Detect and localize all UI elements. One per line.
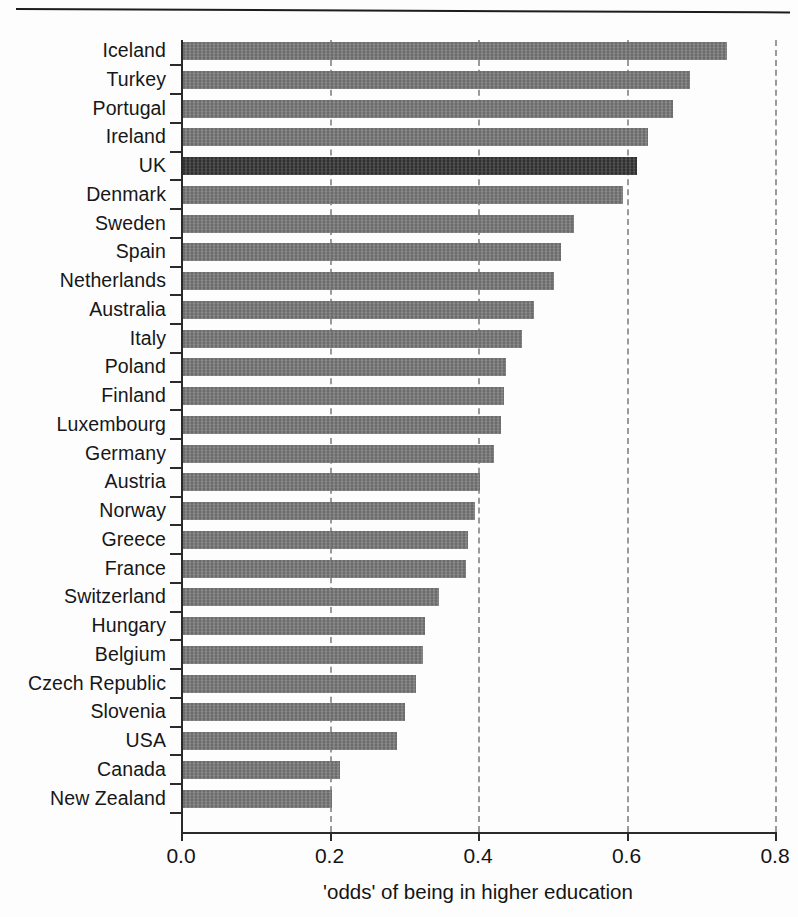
y-tick-mark	[170, 496, 181, 498]
y-tick-mark	[170, 582, 181, 584]
x-tick-label-0.0: 0.0	[166, 844, 195, 868]
y-tick-mark	[170, 93, 181, 95]
bar-greece	[181, 531, 468, 549]
bar-ireland	[181, 128, 648, 146]
y-tick-mark	[170, 237, 181, 239]
category-label-uk: UK	[139, 156, 166, 176]
category-label-switzerland: Switzerland	[64, 587, 166, 607]
bar-poland	[181, 358, 506, 376]
bar-turkey	[181, 71, 690, 89]
y-tick-mark	[170, 639, 181, 641]
x-tick-label-0.4: 0.4	[463, 844, 492, 868]
category-label-luxembourg: Luxembourg	[57, 415, 166, 435]
bar-czech-republic	[181, 675, 416, 693]
category-label-belgium: Belgium	[95, 645, 166, 665]
category-label-sweden: Sweden	[95, 214, 166, 234]
category-label-spain: Spain	[116, 242, 166, 262]
y-tick-mark	[170, 64, 181, 66]
y-tick-mark	[170, 266, 181, 268]
y-tick-mark	[170, 179, 181, 181]
bar-germany	[181, 445, 494, 463]
bar-portugal	[181, 100, 673, 118]
category-label-turkey: Turkey	[107, 70, 166, 90]
bar-slovenia	[181, 703, 405, 721]
bar-iceland	[181, 42, 727, 60]
bar-france	[181, 560, 466, 578]
x-tick-0.4	[478, 832, 480, 841]
gridline-0.8	[775, 40, 777, 832]
y-tick-mark	[170, 812, 181, 814]
bar-new-zealand	[181, 790, 332, 808]
category-label-portugal: Portugal	[93, 99, 166, 119]
bar-finland	[181, 387, 504, 405]
x-tick-0.8	[775, 832, 777, 841]
y-tick-mark	[170, 381, 181, 383]
y-tick-mark	[170, 553, 181, 555]
category-label-australia: Australia	[89, 300, 166, 320]
y-tick-mark	[170, 697, 181, 699]
bar-luxembourg	[181, 416, 501, 434]
category-label-greece: Greece	[101, 530, 166, 550]
bar-switzerland	[181, 588, 439, 606]
bar-uk	[181, 157, 637, 175]
y-tick-mark	[170, 438, 181, 440]
category-label-austria: Austria	[105, 472, 166, 492]
category-label-ireland: Ireland	[106, 127, 166, 147]
bar-norway	[181, 502, 475, 520]
x-tick-0.0	[181, 832, 183, 841]
category-label-czech-republic: Czech Republic	[28, 674, 166, 694]
category-label-new-zealand: New Zealand	[50, 789, 166, 809]
x-tick-label-0.2: 0.2	[315, 844, 344, 868]
category-label-france: France	[105, 559, 166, 579]
y-tick-mark	[170, 208, 181, 210]
category-axis-labels: IcelandTurkeyPortugalIrelandUKDenmarkSwe…	[0, 28, 176, 820]
x-tick-0.6	[627, 832, 629, 841]
category-label-norway: Norway	[99, 501, 166, 521]
top-divider-rule	[16, 8, 790, 13]
y-tick-mark	[170, 783, 181, 785]
bar-sweden	[181, 215, 574, 233]
y-tick-mark	[170, 668, 181, 670]
bar-hungary	[181, 617, 425, 635]
bar-chart-plot: IcelandTurkeyPortugalIrelandUKDenmarkSwe…	[0, 28, 798, 838]
category-label-hungary: Hungary	[92, 616, 166, 636]
x-tick-label-0.8: 0.8	[760, 844, 789, 868]
bar-belgium	[181, 646, 423, 664]
y-tick-mark	[170, 754, 181, 756]
y-tick-mark	[170, 323, 181, 325]
category-label-slovenia: Slovenia	[90, 702, 166, 722]
category-label-poland: Poland	[105, 357, 166, 377]
y-tick-mark	[170, 294, 181, 296]
category-label-finland: Finland	[101, 386, 166, 406]
y-tick-mark	[170, 467, 181, 469]
bar-denmark	[181, 186, 623, 204]
x-axis-title: 'odds' of being in higher education	[181, 880, 775, 904]
y-tick-mark	[170, 409, 181, 411]
y-tick-mark	[170, 611, 181, 613]
y-tick-mark	[170, 524, 181, 526]
bar-austria	[181, 473, 480, 491]
category-label-iceland: Iceland	[102, 41, 166, 61]
category-label-germany: Germany	[85, 444, 166, 464]
bar-canada	[181, 761, 340, 779]
x-tick-label-0.6: 0.6	[612, 844, 641, 868]
category-label-netherlands: Netherlands	[60, 271, 166, 291]
bar-australia	[181, 301, 534, 319]
y-tick-mark	[170, 352, 181, 354]
x-tick-0.2	[330, 832, 332, 841]
y-tick-mark	[170, 151, 181, 153]
bar-usa	[181, 732, 397, 750]
bar-netherlands	[181, 272, 554, 290]
y-axis-spine	[181, 40, 183, 832]
bar-spain	[181, 243, 561, 261]
category-label-denmark: Denmark	[86, 185, 166, 205]
category-label-canada: Canada	[97, 760, 166, 780]
y-tick-mark	[170, 122, 181, 124]
figure-root: IcelandTurkeyPortugalIrelandUKDenmarkSwe…	[0, 0, 798, 917]
category-label-italy: Italy	[130, 329, 166, 349]
y-tick-mark	[170, 726, 181, 728]
category-label-usa: USA	[126, 731, 166, 751]
bar-italy	[181, 330, 522, 348]
